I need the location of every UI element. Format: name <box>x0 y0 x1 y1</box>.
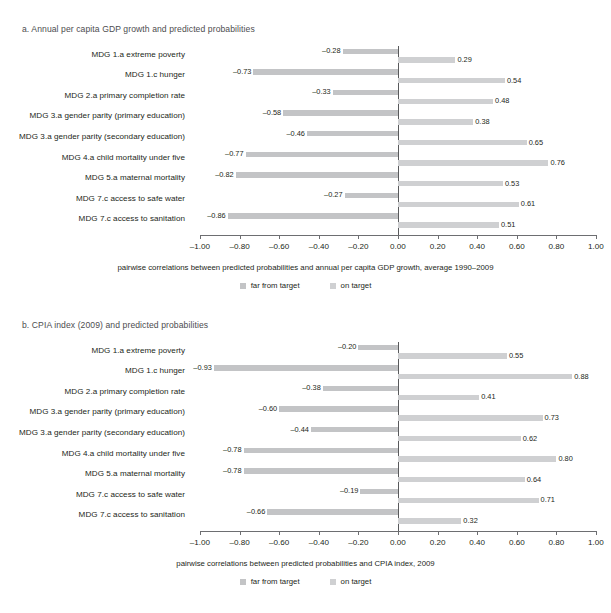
x-axis-tick <box>398 235 399 239</box>
bar-far-from-target[interactable] <box>360 489 398 494</box>
category-label: MDG 1.c hunger <box>125 366 185 375</box>
x-axis-tick <box>517 235 518 239</box>
bar-far-from-target[interactable] <box>343 49 398 54</box>
bar-far-from-target[interactable] <box>323 386 398 391</box>
chart-row: MDG 7.c access to safe water–0.270.61 <box>0 190 611 211</box>
chart-row: MDG 5.a maternal mortality–0.820.53 <box>0 170 611 191</box>
bar-far-from-target[interactable] <box>236 172 398 177</box>
x-axis: –1.00–0.80–0.60–0.40–0.200.000.200.400.6… <box>200 235 596 261</box>
bar-on-target[interactable] <box>398 353 507 358</box>
chart-row: MDG 2.a primary completion rate–0.380.41 <box>0 383 611 404</box>
bar-on-target[interactable] <box>398 202 519 207</box>
bar-value-on-target: 0.54 <box>507 77 521 84</box>
bar-on-target[interactable] <box>398 456 556 461</box>
x-axis-tick-label: –0.40 <box>309 538 329 547</box>
chart-row: MDG 5.a maternal mortality–0.780.64 <box>0 466 611 487</box>
x-axis: –1.00–0.80–0.60–0.40–0.200.000.200.400.6… <box>200 531 596 557</box>
x-axis-tick <box>200 531 201 535</box>
bar-on-target[interactable] <box>398 119 473 124</box>
category-label: MDG 2.a primary completion rate <box>65 91 185 100</box>
bar-on-target[interactable] <box>398 436 521 441</box>
x-axis-tick <box>596 235 597 239</box>
x-axis-tick <box>279 235 280 239</box>
chart-row: MDG 4.a child mortality under five–0.780… <box>0 445 611 466</box>
x-axis-tick-label: 0.20 <box>430 242 446 251</box>
bar-far-from-target[interactable] <box>358 345 398 350</box>
bar-far-from-target[interactable] <box>345 193 398 198</box>
bar-on-target[interactable] <box>398 181 503 186</box>
bar-on-target[interactable] <box>398 518 461 523</box>
bar-on-target[interactable] <box>398 498 539 503</box>
legend-label-far: far from target <box>251 577 300 586</box>
bar-value-far-from-target: –0.38 <box>302 384 321 391</box>
bar-value-far-from-target: –0.60 <box>259 405 278 412</box>
x-axis-tick <box>477 531 478 535</box>
bar-far-from-target[interactable] <box>311 427 398 432</box>
bar-value-far-from-target: –0.27 <box>324 191 343 198</box>
bar-on-target[interactable] <box>398 78 505 83</box>
bar-value-on-target: 0.51 <box>501 221 515 228</box>
bar-value-on-target: 0.88 <box>574 373 588 380</box>
chart-row: MDG 1.c hunger–0.730.54 <box>0 67 611 88</box>
legend-swatch-far-icon <box>240 579 246 585</box>
bar-on-target[interactable] <box>398 395 479 400</box>
x-axis-tick <box>240 531 241 535</box>
bar-on-target[interactable] <box>398 160 548 165</box>
bar-on-target[interactable] <box>398 222 499 227</box>
bar-value-far-from-target: –0.82 <box>215 171 234 178</box>
chart-row: MDG 1.c hunger–0.930.88 <box>0 363 611 384</box>
x-axis-tick-label: 0.00 <box>390 538 406 547</box>
chart-row: MDG 3.a gender parity (primary education… <box>0 108 611 129</box>
x-axis-tick-label: 1.00 <box>588 242 604 251</box>
bar-far-from-target[interactable] <box>253 69 398 74</box>
bar-value-on-target: 0.61 <box>521 200 535 207</box>
bar-value-on-target: 0.53 <box>505 180 519 187</box>
x-axis-tick <box>556 235 557 239</box>
bar-far-from-target[interactable] <box>267 509 398 514</box>
chart-row: MDG 1.a extreme poverty–0.200.55 <box>0 342 611 363</box>
bar-on-target[interactable] <box>398 99 493 104</box>
legend-item-on-target[interactable]: on target <box>330 577 372 586</box>
bar-value-far-from-target: –0.46 <box>286 130 305 137</box>
panel-b-title: b. CPIA index (2009) and predicted proba… <box>22 320 208 330</box>
bar-far-from-target[interactable] <box>283 110 398 115</box>
x-axis-tick <box>438 531 439 535</box>
bar-on-target[interactable] <box>398 140 527 145</box>
x-axis-tick-label: 0.00 <box>390 242 406 251</box>
bar-value-on-target: 0.65 <box>529 139 543 146</box>
bar-far-from-target[interactable] <box>244 468 398 473</box>
bar-far-from-target[interactable] <box>214 365 398 370</box>
category-label: MDG 3.a gender parity (primary education… <box>29 111 185 120</box>
x-axis-tick-label: –0.60 <box>269 538 289 547</box>
x-axis-tick <box>438 235 439 239</box>
bar-far-from-target[interactable] <box>333 90 398 95</box>
x-axis-tick <box>319 235 320 239</box>
bar-on-target[interactable] <box>398 57 455 62</box>
chart-row: MDG 3.a gender parity (secondary educati… <box>0 424 611 445</box>
legend-item-far-from-target[interactable]: far from target <box>240 577 300 586</box>
bar-value-far-from-target: –0.93 <box>193 364 212 371</box>
bar-far-from-target[interactable] <box>279 406 398 411</box>
category-label: MDG 7.c access to safe water <box>76 490 185 499</box>
bar-value-on-target: 0.48 <box>495 97 509 104</box>
chart-row: MDG 2.a primary completion rate–0.330.48 <box>0 87 611 108</box>
x-axis-tick <box>398 531 399 535</box>
bar-far-from-target[interactable] <box>228 213 398 218</box>
bar-on-target[interactable] <box>398 477 525 482</box>
bar-far-from-target[interactable] <box>307 131 398 136</box>
x-axis-tick-label: 1.00 <box>588 538 604 547</box>
chart-row: MDG 3.a gender parity (secondary educati… <box>0 128 611 149</box>
bar-on-target[interactable] <box>398 415 543 420</box>
panel-b-legend: far from target on target <box>0 577 611 586</box>
bar-far-from-target[interactable] <box>246 152 398 157</box>
chart-row: MDG 7.c access to sanitation–0.860.51 <box>0 211 611 232</box>
category-label: MDG 5.a maternal mortality <box>85 173 185 182</box>
bar-value-far-from-target: –0.78 <box>223 467 242 474</box>
bar-value-on-target: 0.71 <box>541 496 555 503</box>
category-label: MDG 3.a gender parity (secondary educati… <box>19 428 185 437</box>
legend-label-on: on target <box>341 577 372 586</box>
legend-item-on-target[interactable]: on target <box>330 281 372 290</box>
bar-far-from-target[interactable] <box>244 448 398 453</box>
bar-on-target[interactable] <box>398 374 572 379</box>
legend-item-far-from-target[interactable]: far from target <box>240 281 300 290</box>
